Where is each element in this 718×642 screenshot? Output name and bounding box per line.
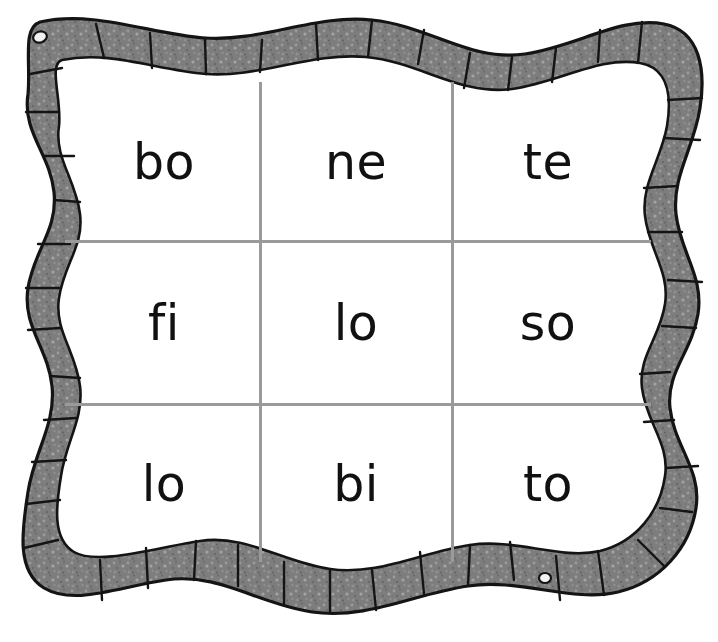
cell-r2c1[interactable]: fi [65, 240, 259, 403]
cell-r2c3[interactable]: so [451, 240, 651, 403]
cell-r3c2-text: bi [333, 460, 379, 509]
cell-r3c1-text: lo [142, 460, 187, 509]
worm-head-eye-icon [32, 30, 49, 45]
cell-r3c1[interactable]: lo [65, 403, 259, 562]
cell-r3c3-text: to [523, 460, 573, 509]
cell-r2c2[interactable]: lo [259, 240, 451, 403]
worksheet-canvas: bo ne te fi lo so lo bi [0, 0, 718, 642]
cell-r1c2[interactable]: ne [259, 82, 451, 240]
cell-r3c2[interactable]: bi [259, 403, 451, 562]
cell-r1c1-text: bo [133, 138, 195, 187]
cell-r2c2-text: lo [334, 299, 379, 348]
cell-r1c3-text: te [523, 138, 573, 187]
syllable-cells: bo ne te fi lo so lo bi [65, 82, 651, 562]
cell-r2c3-text: so [520, 299, 577, 348]
cell-r1c2-text: ne [325, 138, 387, 187]
worm-tail-eye-icon [539, 573, 551, 583]
cell-r1c1[interactable]: bo [65, 82, 259, 240]
cell-r1c3[interactable]: te [451, 82, 651, 240]
cell-r2c1-text: fi [148, 299, 180, 348]
syllable-grid: bo ne te fi lo so lo bi [65, 82, 651, 562]
cell-r3c3[interactable]: to [451, 403, 651, 562]
